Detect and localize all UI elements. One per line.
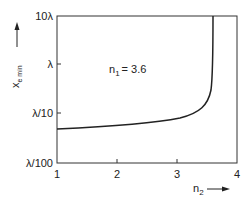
y-tick-label: λ/10 bbox=[32, 107, 53, 119]
svg-text:xe min: xe min bbox=[9, 65, 23, 88]
chart: 10λ λ λ/10 λ/100 1 2 3 4 n2 xe min n1= 3… bbox=[0, 0, 251, 205]
y-axis-arrowhead-icon bbox=[15, 22, 20, 30]
y-tick-label: λ bbox=[48, 58, 54, 70]
x-tick-label: 2 bbox=[114, 168, 120, 180]
x-tick-label: 1 bbox=[54, 168, 60, 180]
y-tick-label: 10λ bbox=[35, 10, 53, 22]
y-tick-label: λ/100 bbox=[26, 157, 53, 169]
x-axis-arrowhead-icon bbox=[222, 187, 230, 192]
x-axis-label: n2 bbox=[193, 182, 204, 197]
x-tick-label: 4 bbox=[234, 168, 240, 180]
x-tick-label: 3 bbox=[174, 168, 180, 180]
annotation-n1: n1= 3.6 bbox=[109, 63, 146, 78]
y-axis-label: xe min bbox=[9, 65, 23, 88]
plot-frame bbox=[57, 16, 237, 163]
